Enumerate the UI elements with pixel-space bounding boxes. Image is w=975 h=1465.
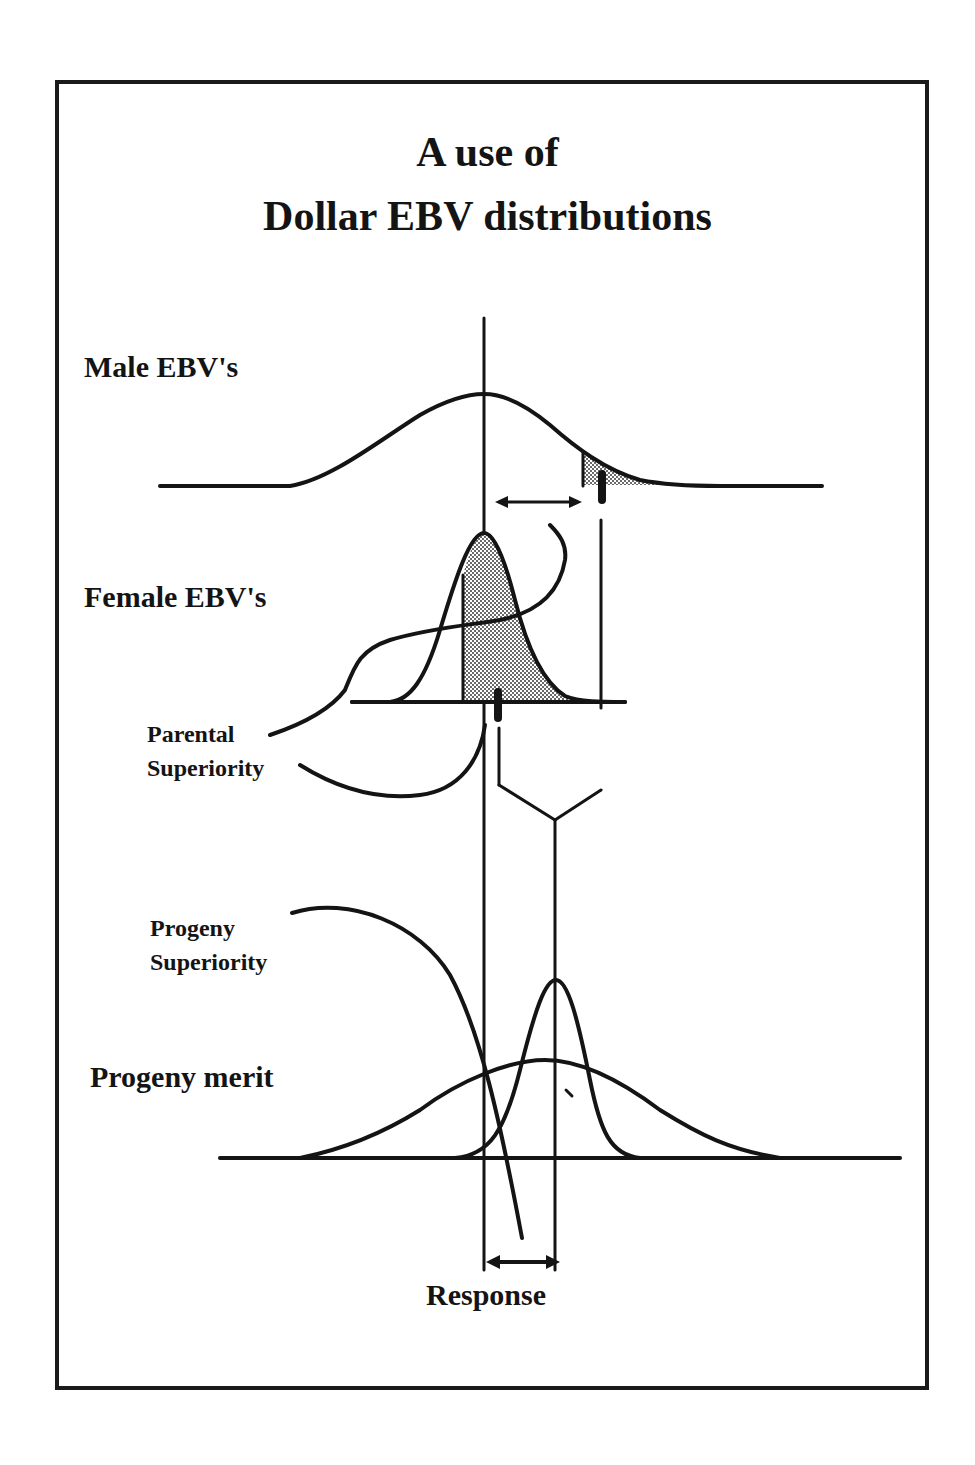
response-arrow-left-icon (486, 1255, 500, 1269)
male-curve (160, 394, 822, 486)
arrow-left-icon (495, 496, 508, 508)
response-arrow-right-icon (546, 1255, 560, 1269)
arrow-right-icon (569, 496, 582, 508)
female-selected-shading (463, 533, 600, 700)
population-merit-curve (300, 1060, 780, 1158)
parental-superiority-pointer-lower (300, 725, 485, 796)
progeny-superiority-pointer (292, 908, 522, 1238)
progeny-distribution (220, 908, 900, 1269)
ebv-distribution-diagram (0, 0, 975, 1465)
